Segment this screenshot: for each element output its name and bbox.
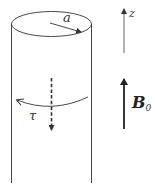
torque-label: τ [29, 108, 37, 123]
z-axis-label: z [128, 7, 135, 20]
torque-arrow [17, 97, 88, 106]
cylinder-field-diagram: a τ z B0 [0, 0, 155, 193]
radius-label: a [63, 10, 71, 25]
field-label: B0 [131, 93, 152, 113]
field-symbol: B [131, 93, 146, 112]
field-subscript: 0 [146, 103, 152, 113]
cylinder-top-face [12, 12, 92, 37]
